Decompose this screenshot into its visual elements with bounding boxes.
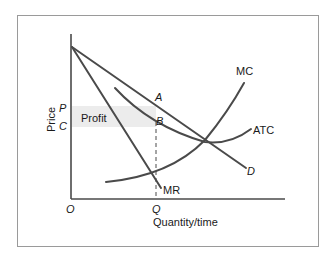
price-c-label: C xyxy=(59,120,67,132)
price-p-label: P xyxy=(59,102,67,114)
monopoly-diagram: MC ATC D MR A B Profit P C Price O Q Qua… xyxy=(0,0,335,260)
origin-label: O xyxy=(66,203,75,215)
x-axis-label: Quantity/time xyxy=(153,216,218,228)
point-a-label: A xyxy=(154,91,162,103)
profit-label: Profit xyxy=(81,112,107,124)
mc-curve-label: MC xyxy=(236,65,253,77)
mr-curve-label: MR xyxy=(163,184,180,196)
quantity-q-label: Q xyxy=(152,203,161,215)
y-axis-label: Price xyxy=(45,107,57,132)
point-b-label: B xyxy=(156,115,163,127)
atc-curve-label: ATC xyxy=(253,124,274,136)
demand-curve-label: D xyxy=(247,165,255,177)
